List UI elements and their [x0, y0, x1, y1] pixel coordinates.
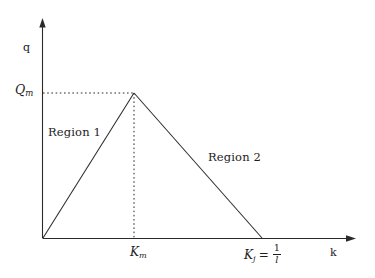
fraction-denominator: l [273, 255, 281, 265]
fundamental-diagram-figure: q Qm Region 1 Region 2 Km Kj=1l k [0, 0, 375, 278]
curve-rising-limb [43, 93, 134, 238]
fraction-numerator: 1 [273, 243, 281, 253]
x-axis [43, 235, 357, 242]
region-1-label: Region 1 [48, 127, 101, 139]
x-tick-km-subscript: m [139, 250, 147, 260]
x-tick-kj-subscript: j [253, 253, 256, 263]
curve-falling-limb [134, 93, 262, 238]
x-axis-label: k [330, 247, 337, 258]
x-tick-label-kj: Kj=1l [244, 243, 281, 265]
y-axis [39, 18, 45, 238]
y-tick-label-qm: Qm [15, 84, 34, 97]
fraction-one-over-l: 1l [273, 243, 281, 265]
equals-sign: = [259, 248, 269, 262]
y-axis-label: q [23, 42, 30, 53]
x-tick-label-km: Km [130, 246, 147, 259]
x-tick-km-symbol: K [130, 245, 139, 259]
region-2-label: Region 2 [208, 152, 261, 164]
plot-canvas [0, 0, 375, 278]
y-tick-subscript: m [25, 88, 33, 98]
x-tick-kj-symbol: K [244, 248, 253, 262]
y-tick-symbol: Q [15, 82, 25, 97]
